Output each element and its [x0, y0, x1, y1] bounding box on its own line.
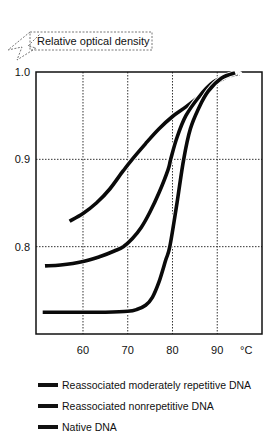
legend-label: Reassociated moderately repetitive DNA — [62, 379, 251, 391]
legend-swatch — [38, 425, 58, 429]
plot-frame — [36, 72, 262, 334]
x-tick-label: 70 — [122, 344, 134, 356]
legend-swatch — [38, 404, 58, 408]
x-unit-label: °C — [240, 344, 252, 356]
legend: Reassociated moderately repetitive DNA R… — [38, 374, 251, 437]
y-tick-label: 1.0 — [15, 66, 30, 78]
legend-label: Native DNA — [62, 421, 117, 433]
x-tick-label: 60 — [77, 344, 89, 356]
y-tick-label: 0.9 — [15, 153, 30, 165]
legend-item-moderately-repetitive: Reassociated moderately repetitive DNA — [38, 374, 251, 395]
curves — [43, 73, 240, 312]
x-tick-label: 90 — [211, 344, 223, 356]
curve-native-dna — [43, 73, 235, 312]
y-axis-label: Relative optical density — [37, 35, 150, 47]
legend-item-native: Native DNA — [38, 416, 251, 437]
grid — [36, 72, 262, 334]
legend-item-nonrepetitive: Reassociated nonrepetitive DNA — [38, 395, 251, 416]
legend-label: Reassociated nonrepetitive DNA — [62, 400, 214, 412]
y-tick-label: 0.8 — [15, 241, 30, 253]
ylabel-callout: Relative optical density — [8, 32, 152, 60]
legend-swatch — [38, 383, 58, 387]
curve-reassociated-nonrepetitive-dna — [45, 74, 237, 266]
x-tick-label: 80 — [166, 344, 178, 356]
